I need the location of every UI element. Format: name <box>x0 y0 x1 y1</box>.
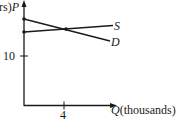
x-axis-label: Q(thousands) <box>111 103 176 117</box>
supply-demand-chart: rs)P 10 4 S D Q(thousands) <box>0 0 178 122</box>
supply-label: S <box>114 19 120 33</box>
equilibrium-dot <box>64 27 68 31</box>
y-tick-label: 10 <box>3 49 15 63</box>
demand-label: D <box>110 35 120 49</box>
y-axis-arrow-icon <box>22 0 27 7</box>
supply-intercept-dot <box>22 30 26 34</box>
demand-intercept-dot <box>22 17 26 21</box>
x-tick-label: 4 <box>60 108 66 122</box>
y-axis-label-fragment: rs)P <box>0 0 20 14</box>
